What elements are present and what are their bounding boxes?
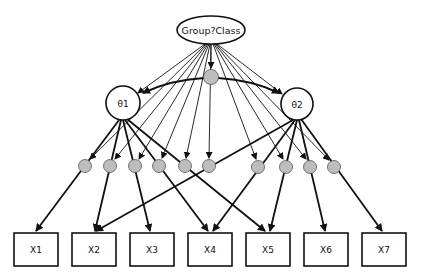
moderator-node: [104, 160, 117, 173]
moderator-node: [179, 160, 192, 173]
moderator-node: [153, 160, 166, 173]
moderator-node: [129, 160, 142, 173]
group-class-node: Group?Class: [177, 16, 245, 44]
latent-node-theta2: θ2: [281, 88, 313, 120]
x3-label: X3: [146, 245, 158, 255]
moderator-nodes: [79, 160, 341, 174]
x5-label: X5: [262, 245, 274, 255]
x2-label: X2: [88, 245, 100, 255]
observed-node-x1: X1: [14, 233, 58, 266]
observed-node-x5: X5: [246, 233, 290, 266]
theta2-label: θ2: [291, 100, 302, 110]
observed-node-x6: X6: [304, 233, 348, 266]
latent-node-theta1: θ1: [106, 86, 140, 120]
moderator-node: [304, 161, 317, 174]
central-grey-node: [204, 70, 219, 85]
moderator-node: [203, 160, 216, 173]
observed-node-x3: X3: [130, 233, 174, 266]
group-class-label: Group?Class: [182, 25, 241, 36]
x6-label: X6: [320, 245, 332, 255]
observed-node-x4: X4: [188, 233, 232, 266]
theta1-edges: [36, 119, 265, 231]
observed-node-x2: X2: [72, 233, 116, 266]
mixture-model-diagram: Group?Class θ1 θ2 X1 X2 X: [0, 0, 421, 279]
observed-nodes: X1 X2 X3 X4 X5 X6 X7: [14, 233, 406, 266]
moderator-node: [79, 160, 92, 173]
x7-label: X7: [378, 245, 390, 255]
theta1-label: θ1: [117, 99, 128, 109]
x1-label: X1: [30, 245, 42, 255]
moderator-node: [252, 161, 265, 174]
x4-label: X4: [204, 245, 216, 255]
theta2-edges: [96, 119, 382, 231]
moderator-node: [328, 161, 341, 174]
observed-node-x7: X7: [362, 233, 406, 266]
moderator-node: [280, 161, 293, 174]
